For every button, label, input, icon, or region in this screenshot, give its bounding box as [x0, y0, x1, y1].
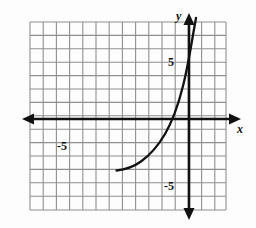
y-axis: [184, 13, 195, 220]
y-axis-tick-label-negative-five: -5: [164, 179, 174, 193]
y-axis-down-arrow: [184, 208, 195, 220]
x-axis: [22, 114, 241, 125]
x-axis-left-arrow: [22, 114, 34, 125]
y-axis-tick-label-five: 5: [168, 55, 174, 69]
y-axis-up-arrow: [184, 13, 195, 25]
x-axis-tick-label-negative-five: -5: [57, 139, 67, 153]
grid-horizontal-lines: [30, 22, 226, 210]
graph-figure: y x -5 5 -5: [0, 0, 256, 228]
coordinate-plane: y x -5 5 -5: [0, 0, 256, 228]
x-axis-label: x: [236, 122, 243, 136]
exponential-curve: [117, 18, 197, 171]
y-axis-label: y: [174, 9, 182, 23]
